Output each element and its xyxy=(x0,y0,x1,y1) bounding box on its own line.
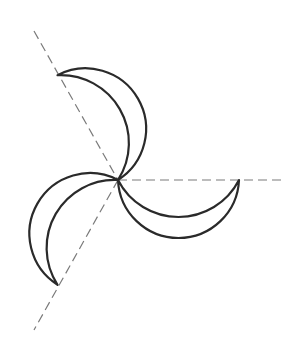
propeller-diagram xyxy=(0,0,293,345)
blades xyxy=(7,46,239,285)
propeller-blade-3 xyxy=(7,151,118,285)
axis-line-2 xyxy=(34,31,118,180)
propeller-blade-2 xyxy=(58,46,169,180)
propeller-blade-1 xyxy=(118,180,239,238)
